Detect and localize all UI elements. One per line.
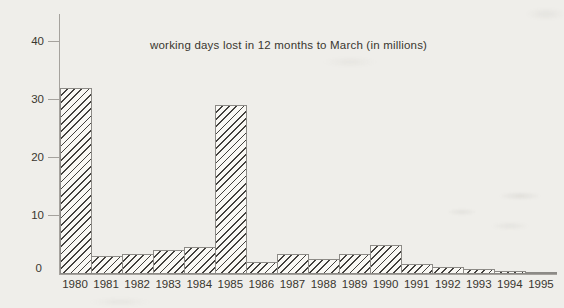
bar-1981	[91, 256, 123, 274]
x-tick-label: 1985	[218, 278, 244, 290]
bar-1982	[122, 254, 154, 275]
bar-1990	[370, 245, 402, 275]
y-tick-label: 30	[0, 93, 44, 105]
bar-1986	[246, 262, 278, 274]
x-tick-label: 1984	[186, 278, 212, 290]
x-tick-label: 1994	[497, 278, 523, 290]
x-tick-label: 1991	[404, 278, 430, 290]
y-tick-mark	[48, 157, 60, 158]
bar-1995	[525, 272, 557, 274]
x-tick-label: 1986	[249, 278, 275, 290]
bar-1984	[184, 247, 216, 274]
x-tick-label: 1983	[155, 278, 181, 290]
y-tick-label: 0	[0, 262, 42, 274]
bar-1985	[215, 105, 247, 274]
x-tick-label: 1981	[93, 278, 119, 290]
bar-1992	[432, 267, 464, 275]
chart-title: working days lost in 12 months to March …	[150, 39, 427, 51]
x-tick-label: 1989	[342, 278, 368, 290]
x-tick-label: 1982	[124, 278, 150, 290]
y-tick-label: 10	[0, 209, 44, 221]
x-tick-label: 1990	[373, 278, 399, 290]
x-tick-label: 1993	[466, 278, 492, 290]
y-tick-mark	[48, 99, 60, 100]
y-tick-mark	[48, 41, 60, 42]
bar-1980	[60, 88, 92, 274]
bar-1991	[401, 264, 433, 274]
scanned-bar-chart-page: working days lost in 12 months to March …	[0, 0, 564, 308]
x-tick-label: 1992	[435, 278, 461, 290]
x-tick-label: 1988	[311, 278, 337, 290]
x-tick-label: 1987	[280, 278, 306, 290]
x-tick-label: 1995	[528, 278, 554, 290]
y-tick-label: 40	[0, 35, 44, 47]
bar-1989	[339, 254, 371, 274]
bar-1993	[463, 269, 495, 274]
bar-1994	[494, 271, 526, 275]
bar-1988	[308, 259, 340, 274]
bar-1987	[277, 254, 309, 274]
y-tick-mark	[48, 215, 60, 216]
x-tick-label: 1980	[62, 278, 88, 290]
bar-1983	[153, 250, 185, 274]
y-tick-label: 20	[0, 151, 44, 163]
